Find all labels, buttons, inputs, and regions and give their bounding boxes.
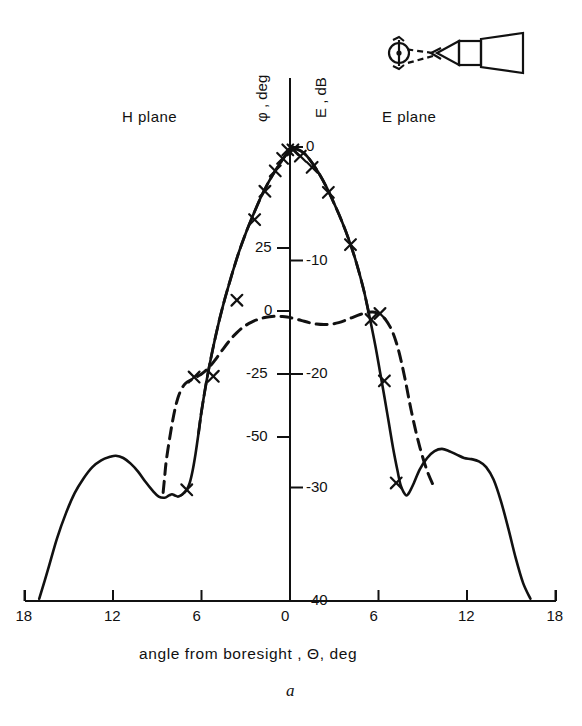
y-left-tick-label-3: -50 <box>246 427 268 444</box>
x-tick-label-0: 18 <box>16 607 33 624</box>
x-axis-ticks <box>25 590 556 601</box>
e-plane-label: E plane <box>382 108 436 125</box>
x-tick-label-5: 12 <box>458 607 475 624</box>
x-tick-label-1: 12 <box>104 607 121 624</box>
marker-x-2 <box>232 295 243 306</box>
marker-x-9 <box>295 151 306 162</box>
marker-x-5 <box>270 165 281 176</box>
x-axis-title: angle from boresight , Θ, deg <box>139 645 357 663</box>
y-left-tick-label-2: -25 <box>246 364 268 381</box>
y-right-tick-label-2: -20 <box>306 364 328 381</box>
y-axis-right-title: E , dB <box>312 77 329 118</box>
marker-x-0 <box>181 484 192 495</box>
y-right-tick-label-3: -30 <box>306 478 328 495</box>
h-plane-label: H plane <box>122 108 177 125</box>
antenna-pattern-figure: H plane E plane φ , deg E , dB angle fro… <box>0 0 582 726</box>
x-tick-label-3: 0 <box>281 607 289 624</box>
main-beam-dashed-overlay <box>199 149 370 433</box>
y-right-tick-label-1: -10 <box>306 251 328 268</box>
y-axis-left-title: φ , deg <box>253 75 270 122</box>
figure-caption: a <box>286 681 295 701</box>
y-axis-right-ticks <box>290 147 303 601</box>
data-markers <box>181 144 401 495</box>
y-right-tick-label-0: 0 <box>306 137 314 154</box>
x-tick-label-4: 6 <box>370 607 378 624</box>
x-tick-label-2: 6 <box>193 607 201 624</box>
horn-antenna-icon <box>389 33 523 73</box>
x-tick-label-6: 18 <box>547 607 564 624</box>
y-right-tick-label-4: -40 <box>306 591 328 608</box>
y-left-tick-label-1: 0 <box>264 301 272 318</box>
y-axis-left-ticks <box>277 248 290 437</box>
marker-x-1 <box>208 371 219 382</box>
y-left-tick-label-0: 25 <box>255 238 272 255</box>
pattern-plot-svg <box>0 0 582 726</box>
